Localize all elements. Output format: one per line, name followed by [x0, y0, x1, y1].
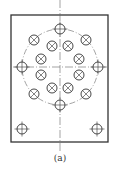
figure-caption: (a) — [0, 153, 120, 163]
